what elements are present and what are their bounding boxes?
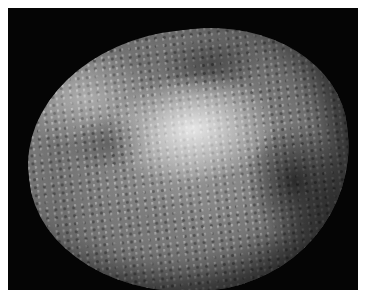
stone-texture <box>15 14 358 290</box>
photo-frame <box>8 8 358 290</box>
stone-photo <box>15 14 358 290</box>
